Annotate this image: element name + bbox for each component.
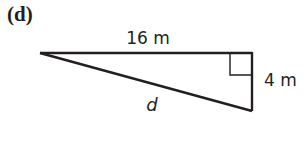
hypotenuse-label: d — [146, 94, 158, 115]
top-side-label: 16 m — [126, 28, 170, 48]
right-triangle-diagram: 16 m 4 m d — [0, 0, 308, 144]
right-side-label: 4 m — [264, 70, 297, 90]
right-angle-marker — [230, 53, 252, 75]
